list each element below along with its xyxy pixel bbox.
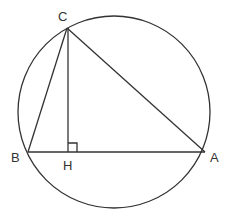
label-a: A [210,150,219,165]
segment-bc [28,28,67,152]
label-h: H [63,158,72,173]
label-b: B [11,150,20,165]
label-c: C [58,9,67,24]
right-angle-mark [68,143,77,152]
geometry-diagram: C B H A [0,0,228,219]
circumcircle [18,16,210,208]
